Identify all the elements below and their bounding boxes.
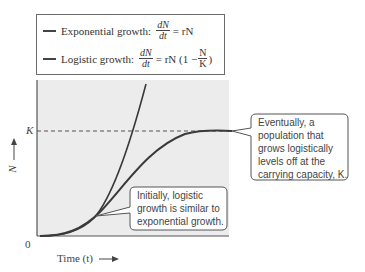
callout-bottom-text: Initially, logistic growth is similar to…: [137, 189, 224, 228]
k-tick-label: K: [26, 124, 33, 136]
x-arrow-head-icon: [112, 256, 119, 262]
callout-right-text: Eventually, a population that grows logi…: [258, 116, 347, 181]
zero-tick-label: 0: [25, 238, 31, 250]
x-axis-label: Time (t): [57, 252, 93, 264]
y-arrow-head-icon: [11, 138, 17, 145]
y-axis-label: N: [6, 165, 18, 172]
